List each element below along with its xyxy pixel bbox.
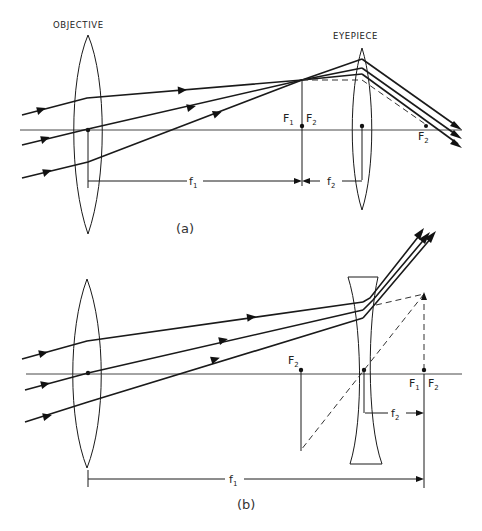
- focal-length-label: f1: [229, 473, 237, 488]
- emergent-ray-3: [362, 74, 458, 144]
- panel-b: F2 F1 F2 f2 f1 (b): [22, 228, 462, 512]
- focal-length-label: f1: [189, 175, 197, 190]
- emergent-ray-1: [362, 59, 458, 127]
- focal-point-f1-f2-dot: [300, 124, 304, 128]
- ray-top-a: [22, 80, 302, 115]
- focal-point-f1-f2-dot: [422, 368, 426, 372]
- arrow-icon: [416, 476, 424, 482]
- focal-point-label: F2: [306, 112, 317, 127]
- arrow-icon: [294, 178, 302, 184]
- focal-point-label: F2: [288, 354, 299, 369]
- ray-bottom-a: [22, 80, 302, 178]
- arrow-icon: [42, 167, 53, 177]
- ray-bottom-b: [25, 318, 363, 422]
- focal-point-label: F1: [409, 377, 420, 392]
- arrow-icon: [302, 178, 310, 184]
- arrow-icon: [36, 105, 47, 115]
- arrow-icon: [425, 231, 436, 243]
- arrow-icon: [218, 335, 229, 345]
- arrow-icon: [38, 348, 49, 358]
- emergent-ray-2: [362, 68, 458, 136]
- arrow-icon: [42, 411, 53, 421]
- panel-a: OBJECTIVE EYEPIECE: [20, 20, 462, 236]
- objective-label: OBJECTIVE: [53, 20, 104, 30]
- focal-point-label: F2: [428, 377, 439, 392]
- caption-a: (a): [176, 221, 194, 236]
- emergent-ray-b1: [363, 232, 422, 302]
- ray-middle-b: [25, 310, 363, 390]
- focal-length-label: f2: [391, 407, 399, 422]
- focal-point-label: F2: [418, 130, 429, 145]
- focal-point-label: F1: [283, 112, 294, 127]
- focal-point-f2-right-dot: [424, 124, 428, 128]
- telescope-ray-diagram: OBJECTIVE EYEPIECE: [0, 0, 482, 531]
- focal-length-label: f2: [327, 175, 335, 190]
- caption-b: (b): [237, 497, 255, 512]
- eyepiece-label: EYEPIECE: [333, 31, 378, 41]
- emergent-ray-b2: [363, 236, 427, 310]
- arrow-icon: [212, 108, 223, 119]
- arrow-icon: [178, 86, 188, 95]
- ray-middle-a: [22, 80, 302, 145]
- arrow-icon: [416, 410, 424, 416]
